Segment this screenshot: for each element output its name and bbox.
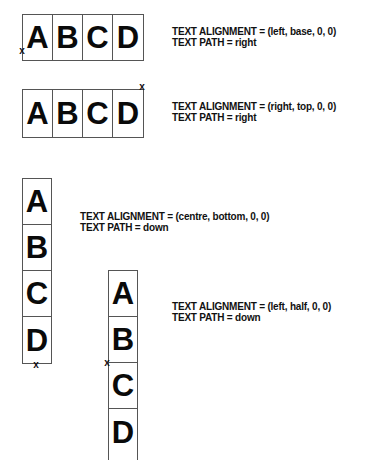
character-cell: A <box>23 90 53 137</box>
character-cell: C <box>83 90 113 137</box>
character-cell: B <box>23 225 51 271</box>
alignment-point-marker: x <box>103 358 111 366</box>
character-cell: D <box>109 409 137 455</box>
text-alignment-label: TEXT ALIGNMENT = (left, half, 0, 0) <box>172 301 331 312</box>
character-cell: C <box>23 271 51 317</box>
text-alignment-label: TEXT ALIGNMENT = (centre, bottom, 0, 0) <box>80 211 269 222</box>
character-cell: C <box>109 363 137 409</box>
text-path-label: TEXT PATH = right <box>172 112 336 123</box>
character-cell: D <box>113 90 143 137</box>
text-alignment-label: TEXT ALIGNMENT = (right, top, 0, 0) <box>172 101 336 112</box>
character-cell: B <box>109 317 137 363</box>
character-cell: D <box>23 317 51 363</box>
character-cell: A <box>23 15 53 60</box>
text-path-label: TEXT PATH = down <box>80 222 269 233</box>
character-cell: B <box>53 90 83 137</box>
text-alignment-label: TEXT ALIGNMENT = (left, base, 0, 0) <box>172 26 336 37</box>
example-3-character-strip: A B C D <box>22 178 52 364</box>
example-3-caption: TEXT ALIGNMENT = (centre, bottom, 0, 0) … <box>80 211 269 233</box>
example-4-character-strip: A B C D <box>108 270 138 460</box>
character-cell: D <box>113 15 143 60</box>
example-1-caption: TEXT ALIGNMENT = (left, base, 0, 0) TEXT… <box>172 26 336 48</box>
text-path-label: TEXT PATH = right <box>172 37 336 48</box>
alignment-point-marker: x <box>138 82 146 90</box>
alignment-point-marker: x <box>32 360 40 368</box>
example-2-caption: TEXT ALIGNMENT = (right, top, 0, 0) TEXT… <box>172 101 336 123</box>
example-4-caption: TEXT ALIGNMENT = (left, half, 0, 0) TEXT… <box>172 301 331 323</box>
example-2-character-strip: A B C D <box>22 89 144 138</box>
text-path-label: TEXT PATH = down <box>172 312 331 323</box>
alignment-point-marker: x <box>18 46 26 54</box>
example-1-character-strip: A B C D <box>22 14 144 61</box>
character-cell: A <box>23 179 51 225</box>
character-cell: B <box>53 15 83 60</box>
character-cell: A <box>109 271 137 317</box>
character-cell: C <box>83 15 113 60</box>
